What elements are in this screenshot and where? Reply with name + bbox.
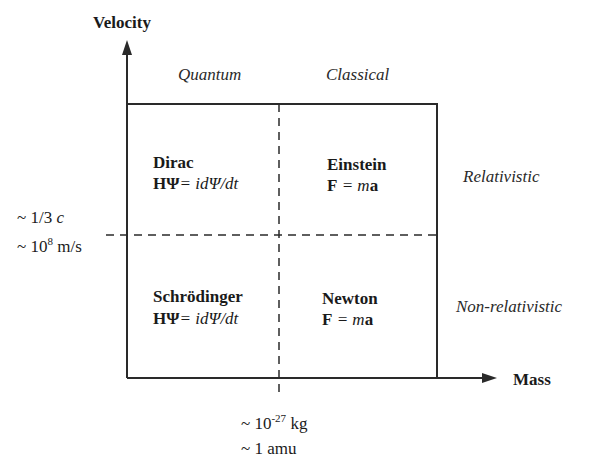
schrodinger-eq-lhs: HΨ — [153, 309, 179, 328]
einstein-eq-mass: = m — [337, 176, 369, 195]
dirac-equation: HΨ= idΨ/dt — [153, 175, 238, 192]
dirac-label: Dirac — [153, 154, 194, 171]
region-label-non-relativistic: Non-relativistic — [456, 298, 562, 315]
dirac-eq-rhs: = idΨ/dt — [179, 174, 238, 193]
region-label-quantum: Quantum — [178, 66, 241, 83]
velocity-tick-line2: ~ 108 m/s — [17, 238, 82, 255]
mass-axis-label: Mass — [513, 371, 551, 388]
schrodinger-eq-rhs: = idΨ/dt — [179, 309, 238, 328]
newton-equation: F = ma — [322, 311, 373, 328]
mass-tick-line1: ~ 10-27 kg — [241, 415, 307, 432]
diagram-lines — [0, 0, 599, 474]
velocity-tick-fraction: ~ 1/3 — [17, 208, 56, 227]
region-label-classical: Classical — [326, 66, 389, 83]
dirac-eq-lhs: HΨ — [153, 174, 179, 193]
schrodinger-equation: HΨ= idΨ/dt — [153, 310, 238, 327]
velocity-tick-line1: ~ 1/3 c — [17, 209, 64, 226]
velocity-tick-unit: m/s — [53, 237, 82, 256]
velocity-axis-label: Velocity — [93, 14, 151, 31]
mass-tick-base: ~ 10 — [241, 414, 271, 433]
velocity-axis-arrow-icon — [122, 40, 132, 55]
newton-eq-force: F — [322, 310, 332, 329]
einstein-eq-force: F — [327, 176, 337, 195]
newton-label: Newton — [322, 290, 378, 307]
schrodinger-label: Schrödinger — [153, 288, 243, 305]
region-label-relativistic: Relativistic — [463, 168, 539, 185]
newton-eq-mass: = m — [332, 310, 364, 329]
velocity-tick-c: c — [56, 208, 64, 227]
velocity-tick-base: ~ 10 — [17, 237, 47, 256]
mass-tick-exp: -27 — [271, 412, 286, 424]
newton-eq-accel: a — [365, 310, 374, 329]
einstein-eq-accel: a — [370, 176, 379, 195]
mass-tick-unit: kg — [286, 414, 307, 433]
mass-axis-arrow-icon — [482, 373, 497, 383]
mass-tick-line2: ~ 1 amu — [241, 440, 296, 457]
einstein-equation: F = ma — [327, 177, 378, 194]
einstein-label: Einstein — [327, 156, 387, 173]
